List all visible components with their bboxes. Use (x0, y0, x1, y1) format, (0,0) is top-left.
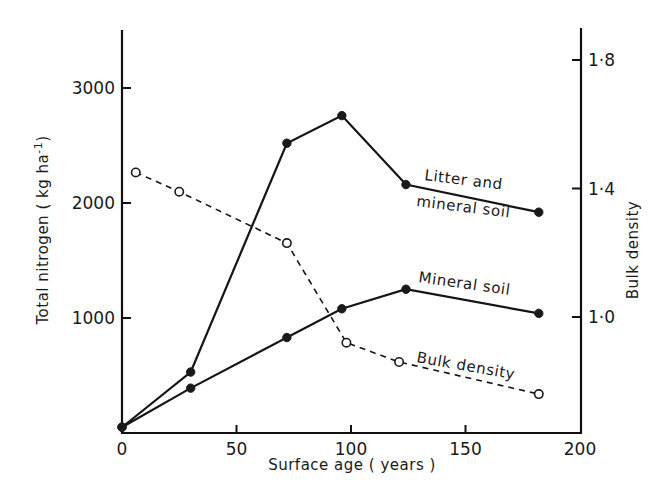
series-litter-and-mineral-soil (118, 111, 543, 431)
left-y-axis-title-main: Total nitrogen ( kg ha (34, 154, 52, 326)
data-point-mineral-soil (535, 309, 543, 317)
right-y-ticks: 1·01·41·8 (572, 50, 615, 327)
left-y-axis-title: Total nitrogen ( kg ha-1) (32, 135, 52, 325)
x-tick-label: 200 (564, 439, 596, 459)
data-point-bulk-density (342, 339, 350, 347)
x-tick-label: 0 (117, 439, 128, 459)
data-point-mineral-soil (402, 285, 410, 293)
data-point-bulk-density (175, 188, 183, 196)
left-y-tick-label: 3000 (72, 78, 115, 98)
left-y-tick-label: 2000 (72, 193, 115, 213)
data-point-mineral-soil (338, 305, 346, 313)
x-ticks: 050100150200 (117, 425, 597, 459)
data-point-bulk-density (283, 239, 291, 247)
left-y-axis-title-superscript: -1 (32, 142, 45, 154)
x-tick-label: 150 (449, 439, 481, 459)
data-point-litter-and-mineral-soil (402, 180, 410, 188)
data-point-mineral-soil (187, 384, 195, 392)
right-y-tick-label: 1·8 (588, 50, 615, 70)
data-point-litter-and-mineral-soil (338, 111, 346, 119)
data-point-litter-and-mineral-soil (187, 368, 195, 376)
right-y-axis-title: Bulk density (624, 201, 642, 299)
x-tick-label: 50 (226, 439, 248, 459)
data-point-bulk-density (395, 358, 403, 366)
data-point-litter-and-mineral-soil (283, 139, 291, 147)
x-axis-title: Surface age ( years ) (268, 456, 436, 474)
label-litter-mineral-line1: Litter and (424, 166, 504, 193)
left-y-tick-label: 1000 (72, 308, 115, 328)
right-y-tick-label: 1·0 (588, 307, 615, 327)
data-point-bulk-density (132, 168, 140, 176)
data-point-mineral-soil (118, 423, 126, 431)
right-y-tick-label: 1·4 (588, 179, 615, 199)
nitrogen-bulk-density-chart: 050100150200 100020003000 1·01·41·8 Surf… (0, 0, 667, 501)
series-layer (118, 111, 543, 431)
data-point-mineral-soil (283, 333, 291, 341)
data-point-litter-and-mineral-soil (535, 208, 543, 216)
data-point-bulk-density (535, 390, 543, 398)
left-y-axis-title-close: ) (34, 135, 52, 141)
series-labels: Litter and mineral soil Mineral soil Bul… (415, 166, 516, 383)
